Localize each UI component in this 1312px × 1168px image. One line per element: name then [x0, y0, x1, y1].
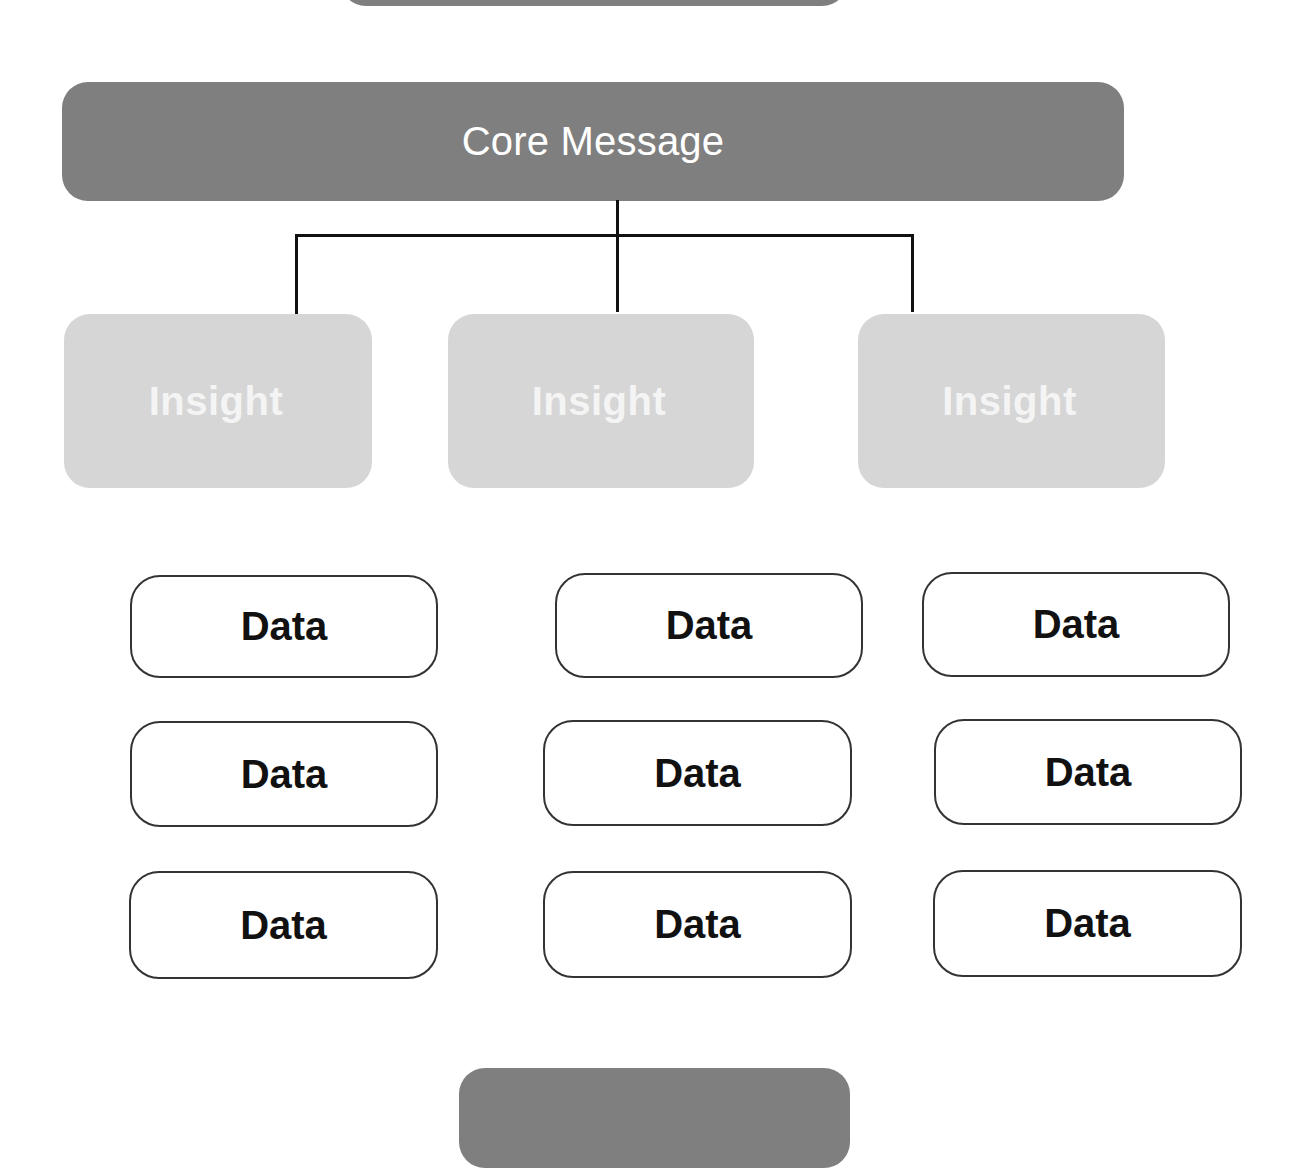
data-label: Data — [654, 751, 741, 796]
core-message-label: Core Message — [462, 119, 725, 164]
data-label: Data — [666, 603, 753, 648]
bottom-partial-box — [459, 1068, 850, 1168]
core-message-box: Core Message — [62, 82, 1124, 201]
insight-box-1: Insight — [64, 314, 372, 488]
data-box-r3-c3: Data — [933, 870, 1242, 977]
insight-box-3: Insight — [858, 314, 1165, 488]
connector-core-stem — [616, 200, 619, 312]
data-label: Data — [1044, 901, 1131, 946]
insight-label: Insight — [532, 379, 667, 424]
data-box-r2-c2: Data — [543, 720, 852, 826]
data-label: Data — [241, 752, 328, 797]
data-box-r3-c1: Data — [129, 871, 438, 979]
data-box-r1-c2: Data — [555, 573, 863, 678]
data-label: Data — [240, 903, 327, 948]
data-label: Data — [241, 604, 328, 649]
data-box-r2-c3: Data — [934, 719, 1242, 825]
data-label: Data — [654, 902, 741, 947]
connector-insight-3 — [911, 234, 914, 312]
connector-insight-1 — [295, 234, 298, 314]
connector-horizontal-bar — [295, 234, 914, 237]
data-box-r3-c2: Data — [543, 871, 852, 978]
insight-label: Insight — [149, 379, 284, 424]
data-box-r1-c1: Data — [130, 575, 438, 678]
data-label: Data — [1045, 750, 1132, 795]
data-box-r1-c3: Data — [922, 572, 1230, 677]
data-box-r2-c1: Data — [130, 721, 438, 827]
insight-box-2: Insight — [448, 314, 754, 488]
data-label: Data — [1033, 602, 1120, 647]
top-partial-box — [340, 0, 848, 6]
insight-label: Insight — [942, 379, 1077, 424]
